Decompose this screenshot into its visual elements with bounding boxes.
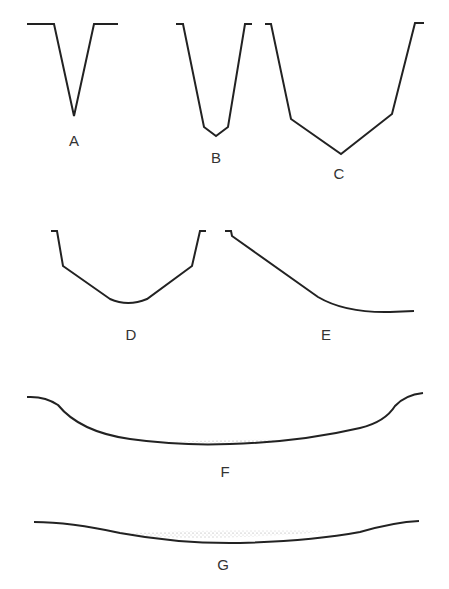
label-d: D	[126, 326, 137, 343]
profile-d: D	[51, 231, 206, 343]
sediment-fill-g	[122, 530, 335, 538]
profile-a: A	[27, 24, 118, 149]
profile-c: C	[265, 23, 424, 182]
profile-e: E	[225, 231, 414, 343]
label-a: A	[69, 132, 79, 149]
profile-g: G	[34, 521, 419, 573]
profile-f: F	[27, 393, 423, 480]
label-b: B	[211, 149, 221, 166]
label-f: F	[220, 463, 229, 480]
valley-profiles-diagram: A B C D E F G	[0, 0, 449, 589]
label-e: E	[321, 326, 331, 343]
label-g: G	[217, 556, 229, 573]
label-c: C	[334, 165, 345, 182]
profile-b: B	[176, 24, 252, 166]
